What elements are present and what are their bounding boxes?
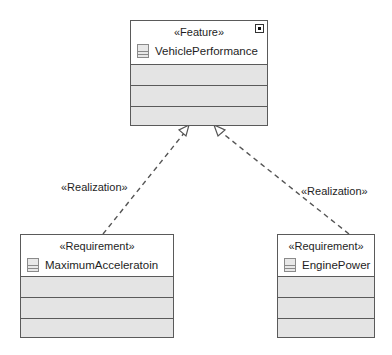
- class-icon: [137, 44, 149, 58]
- class-name[interactable]: VehiclePerformance: [155, 45, 258, 57]
- realization-edge-right[interactable]: [221, 132, 349, 234]
- class-header: «Requirement» MaximumAcceleratoin: [21, 235, 173, 276]
- stereotype-label: «Requirement»: [278, 240, 374, 252]
- compartment[interactable]: [131, 106, 267, 125]
- compartment[interactable]: [21, 297, 173, 318]
- name-row: MaximumAcceleratoin: [27, 257, 169, 273]
- compartment[interactable]: [21, 276, 173, 297]
- requirement-maximum-acceleration[interactable]: «Requirement» MaximumAcceleratoin: [20, 234, 174, 338]
- class-icon: [284, 258, 296, 272]
- compartment[interactable]: [278, 276, 374, 297]
- class-name[interactable]: MaximumAcceleratoin: [45, 259, 158, 271]
- name-row: VehiclePerformance: [137, 43, 263, 59]
- compartment[interactable]: [21, 318, 173, 337]
- realization-arrowhead-right: [214, 125, 225, 136]
- stereotype-label: «Requirement»: [21, 240, 173, 252]
- realization-label-left: «Realization»: [61, 181, 128, 193]
- compartment[interactable]: [131, 85, 267, 106]
- stereotype-label: «Feature»: [131, 26, 267, 38]
- class-header: «Requirement» EnginePower: [278, 235, 374, 276]
- name-row: EnginePower: [284, 257, 370, 273]
- class-name[interactable]: EnginePower: [302, 259, 370, 271]
- class-header: «Feature» VehiclePerformance: [131, 21, 267, 64]
- compartment[interactable]: [278, 297, 374, 318]
- realization-arrowhead-left: [179, 125, 189, 136]
- compartment[interactable]: [131, 64, 267, 85]
- feature-vehicle-performance[interactable]: «Feature» VehiclePerformance: [130, 20, 268, 126]
- compartment[interactable]: [278, 318, 374, 337]
- class-icon: [27, 258, 39, 272]
- realization-label-right: «Realization»: [301, 185, 368, 197]
- requirement-engine-power[interactable]: «Requirement» EnginePower: [277, 234, 375, 338]
